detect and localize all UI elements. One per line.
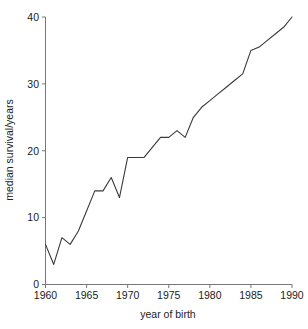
x-tick-label: 1985 xyxy=(239,289,263,301)
y-axis-title: median survival/years xyxy=(3,99,15,201)
y-tick-label: 20 xyxy=(27,145,39,157)
x-tick-label: 1965 xyxy=(75,289,99,301)
x-tick-label: 1960 xyxy=(34,289,58,301)
x-tick-label: 1970 xyxy=(116,289,140,301)
y-tick-label: 30 xyxy=(27,78,39,90)
y-tick-label: 40 xyxy=(27,11,39,23)
y-tick-labels: 010203040 xyxy=(27,11,39,291)
x-tick-marks xyxy=(46,285,293,289)
x-tick-label: 1980 xyxy=(198,289,222,301)
x-axis-title: year of birth xyxy=(140,308,196,320)
x-tick-labels: 1960196519701975198019851990 xyxy=(34,289,304,301)
chart-canvas: 010203040 1960196519701975198019851990 y… xyxy=(0,0,308,329)
x-tick-label: 1990 xyxy=(280,289,304,301)
x-tick-label: 1975 xyxy=(157,289,181,301)
chart-figure: 010203040 1960196519701975198019851990 y… xyxy=(0,0,308,329)
median-survival-line xyxy=(46,17,293,264)
y-tick-label: 10 xyxy=(27,211,39,223)
